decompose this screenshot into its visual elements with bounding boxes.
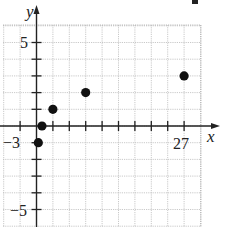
x-axis-label: x (206, 127, 215, 146)
cropped-glyph-fragment (192, 0, 198, 4)
axes (0, 5, 220, 227)
x-tick-label-max: 27 (173, 135, 189, 152)
scatter-plot: y x −3 27 5 −5 (0, 0, 231, 227)
data-point (180, 71, 189, 80)
data-point (37, 121, 46, 130)
data-point (34, 138, 43, 147)
y-axis-label: y (24, 2, 34, 21)
x-tick-label-min: −3 (3, 134, 20, 151)
y-tick-label-min: −5 (10, 202, 27, 219)
data-point (48, 105, 57, 114)
data-point (81, 88, 90, 97)
y-tick-label-max: 5 (20, 34, 28, 51)
